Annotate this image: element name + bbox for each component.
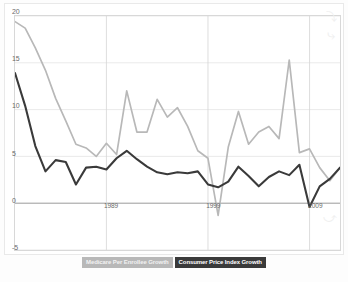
chart-screenshot: 20151050-5 198919992009 ⤵ ⤷ ⤻ Medicare P…: [0, 0, 348, 282]
legend-item-cpi[interactable]: Consumer Price Index Growth: [175, 257, 266, 268]
y-tick-5: 5: [12, 150, 16, 158]
x-tick-1989: 1989: [104, 202, 118, 210]
series-line-cpi: [15, 73, 340, 207]
x-tick-2009: 2009: [308, 202, 322, 210]
x-tick-1999: 1999: [206, 202, 220, 210]
y-tick-15: 15: [12, 55, 19, 63]
figure-frame: 20151050-5 198919992009 ⤵ ⤷ ⤻: [4, 3, 344, 255]
y-tick-0: 0: [12, 197, 16, 205]
plot-area: [14, 15, 341, 251]
series-lines: [15, 16, 340, 250]
y-tick-10: 10: [12, 102, 19, 110]
y-tick--5: -5: [12, 244, 18, 252]
chart-legend: Medicare Per Enrollee Growth Consumer Pr…: [0, 257, 348, 268]
y-tick-20: 20: [12, 8, 19, 16]
series-line-medicare: [15, 22, 340, 216]
legend-item-medicare[interactable]: Medicare Per Enrollee Growth: [82, 257, 173, 268]
